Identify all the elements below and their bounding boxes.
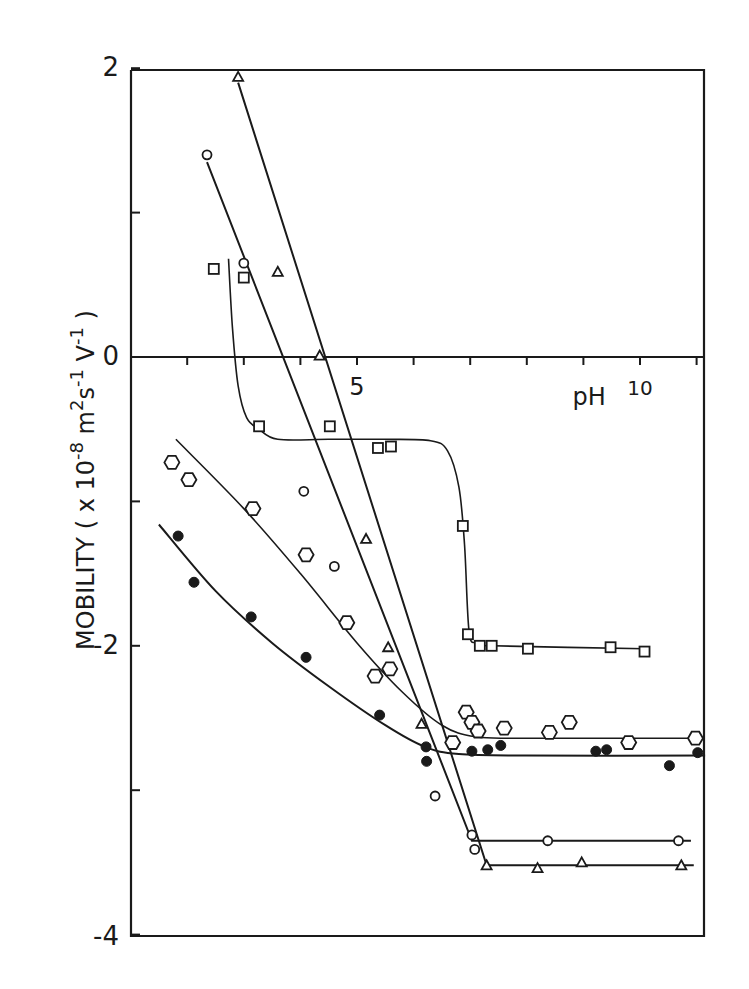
hexagons-curve [176,439,697,738]
circle-marker-icon [467,830,476,839]
filled-circle-marker-icon [173,531,183,541]
triangle-marker-icon [577,857,587,866]
axis-labels: 20-2-4510pHMOBILITY ( x 10-8 m2s-1 V-1 ) [66,52,653,950]
filled-circle-marker-icon [422,756,432,766]
y-axis-label-part: -1 [66,327,87,345]
hexagon-marker-icon [382,662,397,675]
y-tick-label: 0 [102,341,119,371]
hexagon-marker-icon [497,722,512,735]
square-marker-icon [239,273,249,283]
square-marker-icon [458,521,468,531]
y-axis-label-part: ) [72,310,100,327]
filled-circle-marker-icon [246,612,256,622]
y-axis-label-part: V [72,344,100,369]
square-marker-icon [606,642,616,652]
circle-marker-icon [239,259,248,268]
square-marker-icon [463,629,473,639]
filled-circle-marker-icon [375,710,385,720]
hexagon-marker-icon [339,616,354,629]
filled-circle-marker-icon [301,652,311,662]
filled-circle-marker-icon [602,745,612,755]
triangle-marker-icon [482,860,492,869]
hexagon-marker-icon [471,725,486,738]
circle-marker-icon [299,487,308,496]
mobility-vs-ph-chart: 20-2-4510pHMOBILITY ( x 10-8 m2s-1 V-1 ) [0,0,749,989]
triangle-marker-icon [383,642,393,651]
filled-circle-marker-icon [189,577,199,587]
hexagon-marker-icon [299,548,314,561]
filled-circle-marker-icon [467,746,477,756]
y-axis-label-part: -8 [66,442,87,460]
filled-circle-marker-icon [483,745,493,755]
filled-circle-marker-icon [496,740,506,750]
circle-marker-icon [203,150,212,159]
y-tick-label: 2 [102,52,119,82]
hexagon-marker-icon [164,456,179,469]
y-axis-label-part: 2 [66,400,87,411]
squares-curve [229,259,645,649]
triangle-marker-icon [676,860,686,869]
plot-frame [131,70,704,936]
square-marker-icon [373,443,383,453]
y-axis-label-part: m [72,411,100,442]
square-marker-icon [325,421,335,431]
triangle-marker-icon [273,267,283,276]
x-tick-label: 5 [349,373,364,401]
hexagon-marker-icon [562,716,577,729]
square-marker-icon [487,641,497,651]
filled-circles-curve [159,525,705,756]
triangles-series [233,72,686,872]
circle-marker-icon [470,845,479,854]
filled-circle-marker-icon [421,742,431,752]
hexagons-series [164,456,703,749]
hexagon-marker-icon [368,670,383,683]
circle-marker-icon [431,791,440,800]
plot-border [131,70,704,936]
square-marker-icon [640,647,650,657]
triangle-marker-icon [361,534,371,543]
data-markers [164,72,703,872]
square-marker-icon [254,421,264,431]
square-marker-icon [209,264,219,274]
y-tick-label: -4 [93,921,119,951]
y-axis-label-part: -1 [66,369,87,387]
hexagon-marker-icon [621,736,636,749]
hexagon-marker-icon [542,726,557,739]
fit-curves [159,83,705,866]
hexagon-marker-icon [245,502,260,515]
filled-circle-marker-icon [664,761,674,771]
hexagon-marker-icon [688,732,703,745]
filled-circle-marker-icon [591,746,601,756]
square-marker-icon [475,641,485,651]
y-axis-label-part: MOBILITY ( x 10 [72,460,100,650]
hexagon-marker-icon [181,473,196,486]
y-axis-label-part: s [72,387,100,400]
axis-ticks [131,68,697,934]
filled-circles-series [173,531,703,771]
x-tick-label: 10 [627,376,652,400]
squares-series [209,264,650,657]
y-axis-label: MOBILITY ( x 10-8 m2s-1 V-1 ) [66,310,100,650]
filled-circle-marker-icon [693,748,703,758]
x-axis-label: pH [572,383,605,411]
circle-marker-icon [543,836,552,845]
square-marker-icon [523,644,533,654]
circle-marker-icon [330,562,339,571]
triangle-marker-icon [233,72,243,81]
hexagon-marker-icon [445,736,460,749]
circle-marker-icon [674,836,683,845]
square-marker-icon [386,442,396,452]
